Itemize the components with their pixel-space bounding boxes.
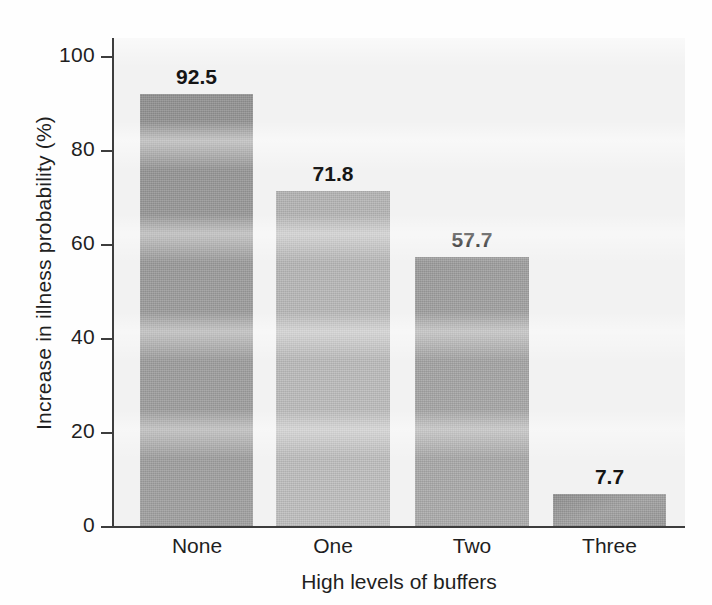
bar-three-body bbox=[553, 494, 666, 527]
y-tick-label-20: 20 bbox=[15, 419, 95, 443]
y-tick-label-0: 0 bbox=[15, 513, 95, 537]
bar-two[interactable]: 57.7 bbox=[415, 257, 529, 527]
bar-none-value: 92.5 bbox=[176, 65, 217, 89]
bar-none[interactable]: 92.5 bbox=[140, 94, 253, 527]
y-tick-label-60: 60 bbox=[15, 231, 95, 255]
x-axis-line bbox=[112, 526, 685, 528]
y-tick-label-40: 40 bbox=[15, 325, 95, 349]
x-tick-label-two: Two bbox=[415, 534, 529, 558]
bar-three-value: 7.7 bbox=[595, 465, 624, 489]
x-axis-title: High levels of buffers bbox=[113, 570, 685, 594]
x-tick-label-three: Three bbox=[553, 534, 666, 558]
plot-area: 92.5 71.8 57.7 7.7 bbox=[113, 38, 685, 527]
y-axis-line bbox=[112, 38, 114, 528]
bar-chart-figure: Increase in illness probability (%) 100 … bbox=[0, 0, 712, 605]
bar-one[interactable]: 71.8 bbox=[276, 191, 390, 527]
x-tick-label-none: None bbox=[140, 534, 254, 558]
x-tick-label-one: One bbox=[276, 534, 390, 558]
bar-two-value: 57.7 bbox=[452, 228, 493, 252]
y-tick-label-80: 80 bbox=[15, 137, 95, 161]
y-tick-label-100: 100 bbox=[15, 43, 95, 67]
bar-three[interactable]: 7.7 bbox=[553, 494, 666, 527]
bar-one-body bbox=[276, 191, 390, 527]
bar-none-body bbox=[140, 94, 253, 527]
bar-one-value: 71.8 bbox=[313, 162, 354, 186]
bar-two-body bbox=[415, 257, 529, 527]
